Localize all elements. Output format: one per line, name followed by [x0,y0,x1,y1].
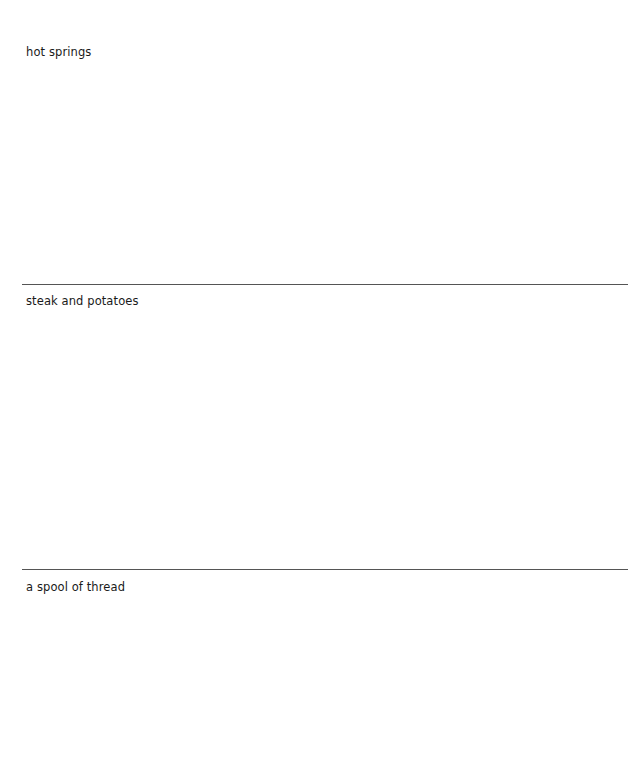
section-label: hot springs [26,45,91,59]
section-label: steak and potatoes [26,294,139,308]
section-label: a spool of thread [26,580,125,594]
section-3: a spool of thread [0,570,644,758]
section-2: steak and potatoes [0,285,644,569]
section-1: hot springs [0,0,644,285]
